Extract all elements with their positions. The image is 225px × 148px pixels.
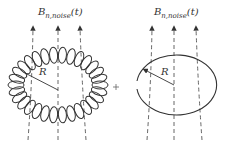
field-lines-right <box>147 28 202 140</box>
radius-label-right: R <box>161 66 169 77</box>
plus-operator <box>113 84 119 90</box>
toroid-coil <box>8 28 108 140</box>
radius-label-left: R <box>39 66 47 77</box>
field-label-right: Bn,noise(t) <box>154 6 199 20</box>
loop-ellipse <box>137 55 217 115</box>
single-loop <box>137 28 217 140</box>
radius-arrow-right <box>145 70 174 85</box>
diagram-canvas <box>0 0 225 148</box>
field-lines-left <box>28 28 86 140</box>
field-label-left: Bn,noise(t) <box>38 6 83 20</box>
